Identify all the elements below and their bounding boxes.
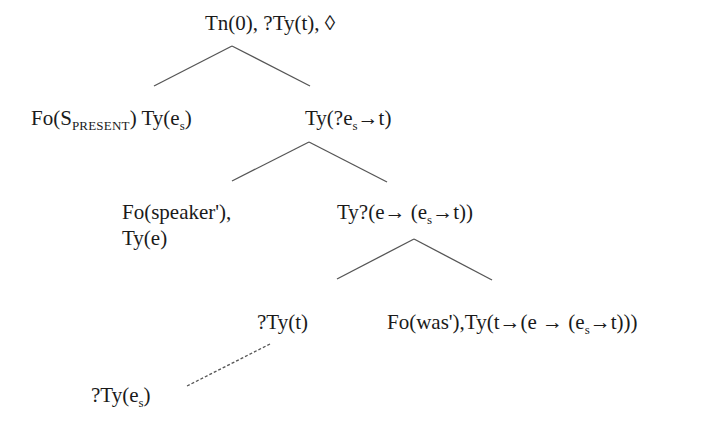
node-left1: Fo(SPRESENT) Ty(es) [31,105,192,131]
node-unfixed-ty: ?Ty(e [91,383,139,407]
node-unfixed-close: ) [144,383,151,407]
edge-right1-left2 [232,142,309,181]
node-right1-rest: →t) [358,106,392,130]
node-left1-s: S [60,106,72,130]
edge-right2-left3 [337,239,414,279]
edge-right1-right2 [309,142,387,182]
node-unfixed-subscript: s [139,395,144,410]
node-unfixed: ?Ty(es) [91,382,151,408]
edge-left3-unfixed-dashed [187,344,270,386]
node-right1-subscript: s [353,118,358,133]
node-left1-ty-close: ) [185,106,192,130]
node-root-label: Tn(0), ?Ty(t), ◊ [205,11,335,35]
node-left3: ?Ty(t) [257,309,308,335]
node-left1-close: ) [130,106,137,130]
node-left1-ty: Ty(e [137,106,180,130]
edge-right2-right3 [414,239,492,280]
node-left1-present-subscript: PRESENT [72,118,130,133]
node-left2: Fo(speaker'), Ty(e) [122,199,231,251]
edge-root-right1 [232,46,310,86]
node-root: Tn(0), ?Ty(t), ◊ [205,10,335,36]
tree-diagram: Tn(0), ?Ty(t), ◊ Fo(SPRESENT) Ty(es) Ty(… [0,0,721,438]
node-right2-rest: →t)) [432,200,473,224]
node-left1-s-subscript: s [180,118,185,133]
node-left2-line2: Ty(e) [122,225,231,251]
node-right3-rest: →t))) [590,310,638,334]
node-right2-subscript: s [427,212,432,227]
node-right1: Ty(?es→t) [305,105,391,131]
node-right3: Fo(was'),Ty(t→(e → (es→t))) [387,309,638,335]
node-right2: Ty?(e→ (es→t)) [337,199,473,225]
node-right3-subscript: s [585,322,590,337]
node-left1-fo: Fo( [31,106,60,130]
node-right1-ty: Ty(?e [305,106,353,130]
node-left2-line1: Fo(speaker'), [122,199,231,225]
node-left3-label: ?Ty(t) [257,310,308,334]
edge-root-left1 [154,46,232,86]
node-right3-fo: Fo(was'),Ty(t→(e → (e [387,310,585,334]
node-right2-ty: Ty?(e→ (e [337,200,427,224]
